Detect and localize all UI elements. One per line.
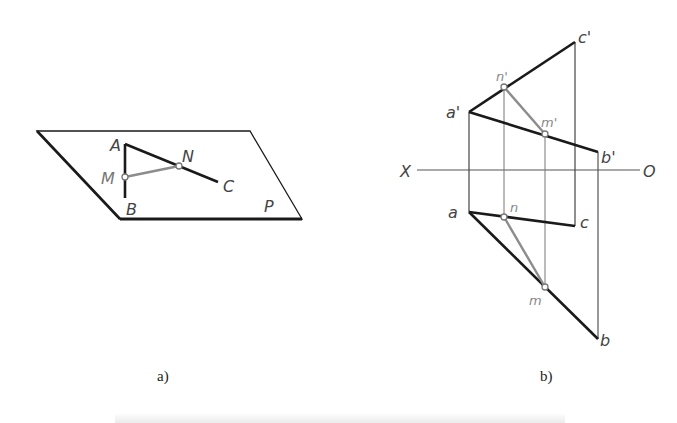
label-m: m: [529, 293, 542, 308]
caption-b: b): [540, 368, 553, 385]
caption-a: a): [157, 368, 169, 385]
figure-caption-cropped: [115, 413, 565, 423]
label-a: A: [109, 136, 121, 155]
label-b: b: [600, 331, 610, 350]
label-c: c: [580, 213, 589, 232]
label-a-prime: a': [446, 103, 460, 122]
point-m: [122, 174, 128, 180]
figure-a: A B C M N P a): [37, 131, 302, 385]
label-axis-o: O: [643, 162, 656, 181]
point-n-top: [501, 214, 507, 220]
label-n: N: [182, 147, 194, 166]
line-n1m1: [504, 87, 545, 134]
label-plane-p: P: [264, 197, 274, 216]
line-a1b1: [469, 112, 598, 152]
label-n: n: [510, 200, 518, 215]
label-n-prime: n': [496, 69, 508, 84]
label-c-prime: c': [578, 28, 591, 47]
line-ac: [125, 144, 218, 182]
line-mn: [125, 166, 179, 177]
line-a1c1: [469, 42, 575, 112]
label-m-prime: m': [541, 115, 557, 130]
label-a: a: [448, 203, 458, 222]
line-ac-top: [469, 212, 575, 226]
figure-b: X O a' b' c' n' m' a b c n m b): [399, 28, 656, 385]
label-m: M: [101, 169, 115, 188]
point-n1: [501, 84, 507, 90]
point-m1: [542, 131, 548, 137]
label-axis-x: X: [399, 162, 412, 181]
label-b-prime: b': [601, 148, 616, 167]
label-b: B: [126, 200, 137, 219]
label-c: C: [223, 177, 235, 196]
point-m-top: [542, 284, 548, 290]
line-ab-top: [469, 212, 598, 339]
